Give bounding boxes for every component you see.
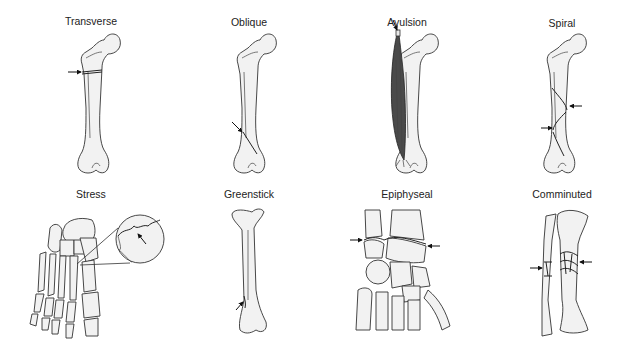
fracture-illustrations — [0, 0, 617, 348]
transverse-femur — [78, 34, 121, 173]
stress-foot — [30, 215, 164, 338]
oblique-femur — [234, 34, 277, 173]
greenstick-bone — [232, 209, 266, 333]
epiphyseal-wrist — [350, 210, 450, 330]
arrow-icon — [232, 122, 242, 132]
arrow-icon — [393, 20, 397, 30]
spiral-femur — [544, 34, 587, 173]
comminuted-bones — [530, 210, 592, 336]
